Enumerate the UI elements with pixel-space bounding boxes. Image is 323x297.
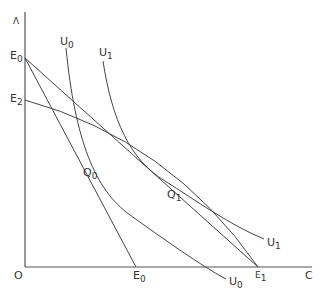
y-axis-label: Λ (13, 17, 19, 26)
label-e2: E2 (10, 93, 23, 107)
budget-line-e0 (25, 58, 136, 267)
origin-label: O (14, 270, 23, 281)
diagram-canvas (0, 0, 323, 297)
label-u1-end: U1 (267, 237, 281, 251)
label-u1-top: U1 (99, 47, 113, 61)
label-q0: Q0 (83, 167, 97, 181)
label-q1: Q1 (167, 189, 181, 203)
frontier-curve-e2-e1 (25, 100, 258, 267)
indifference-curve-u0 (66, 48, 226, 279)
label-e0-top: E0 (10, 50, 23, 64)
x-axis-label: C (305, 270, 313, 281)
label-u0-end: U0 (229, 276, 243, 290)
label-u0-top: U0 (60, 36, 74, 50)
label-e1: E1 (255, 271, 266, 283)
budget-line-e0-e1 (25, 58, 258, 267)
label-e0-axis: E0 (133, 270, 146, 284)
